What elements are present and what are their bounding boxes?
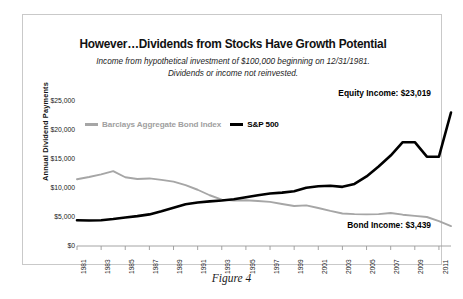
- chart-subtitle: Income from hypothetical investment of $…: [23, 56, 443, 79]
- legend-entry-equity: S&P 500: [230, 120, 279, 129]
- figure-caption: Figure 4: [0, 272, 463, 284]
- y-axis-tick-label: $15,000: [31, 155, 75, 162]
- equity-income-annotation: Equity Income: $23,019: [338, 88, 431, 98]
- bond-income-annotation: Bond Income: $3,439: [347, 220, 431, 230]
- legend-entry-bond: Barclays Aggregate Bond Index: [85, 120, 221, 129]
- chart-subtitle-line-2: Dividends or income not reinvested.: [23, 68, 443, 80]
- chart-panel: However…Dividends from Stocks Have Growt…: [22, 14, 442, 265]
- chart-legend: Barclays Aggregate Bond Index S&P 500: [85, 118, 279, 131]
- legend-label-bond: Barclays Aggregate Bond Index: [102, 120, 221, 129]
- y-axis-tick-label: $0: [31, 242, 75, 249]
- chart-subtitle-line-1: Income from hypothetical investment of $…: [23, 56, 443, 68]
- figure-container: However…Dividends from Stocks Have Growt…: [0, 0, 463, 299]
- legend-label-equity: S&P 500: [247, 120, 279, 129]
- y-axis-tick-label: $10,000: [31, 184, 75, 191]
- legend-swatch-equity-icon: [230, 123, 243, 126]
- y-axis-tick-labels: $0$5,000$10,000$15,000$20,000$25,000: [27, 101, 75, 246]
- y-axis-tick-label: $5,000: [31, 213, 75, 220]
- y-axis-tick-label: $25,000: [31, 97, 75, 104]
- chart-title: However…Dividends from Stocks Have Growt…: [36, 37, 431, 51]
- legend-swatch-bond-icon: [85, 123, 98, 125]
- y-axis-tick-label: $20,000: [31, 126, 75, 133]
